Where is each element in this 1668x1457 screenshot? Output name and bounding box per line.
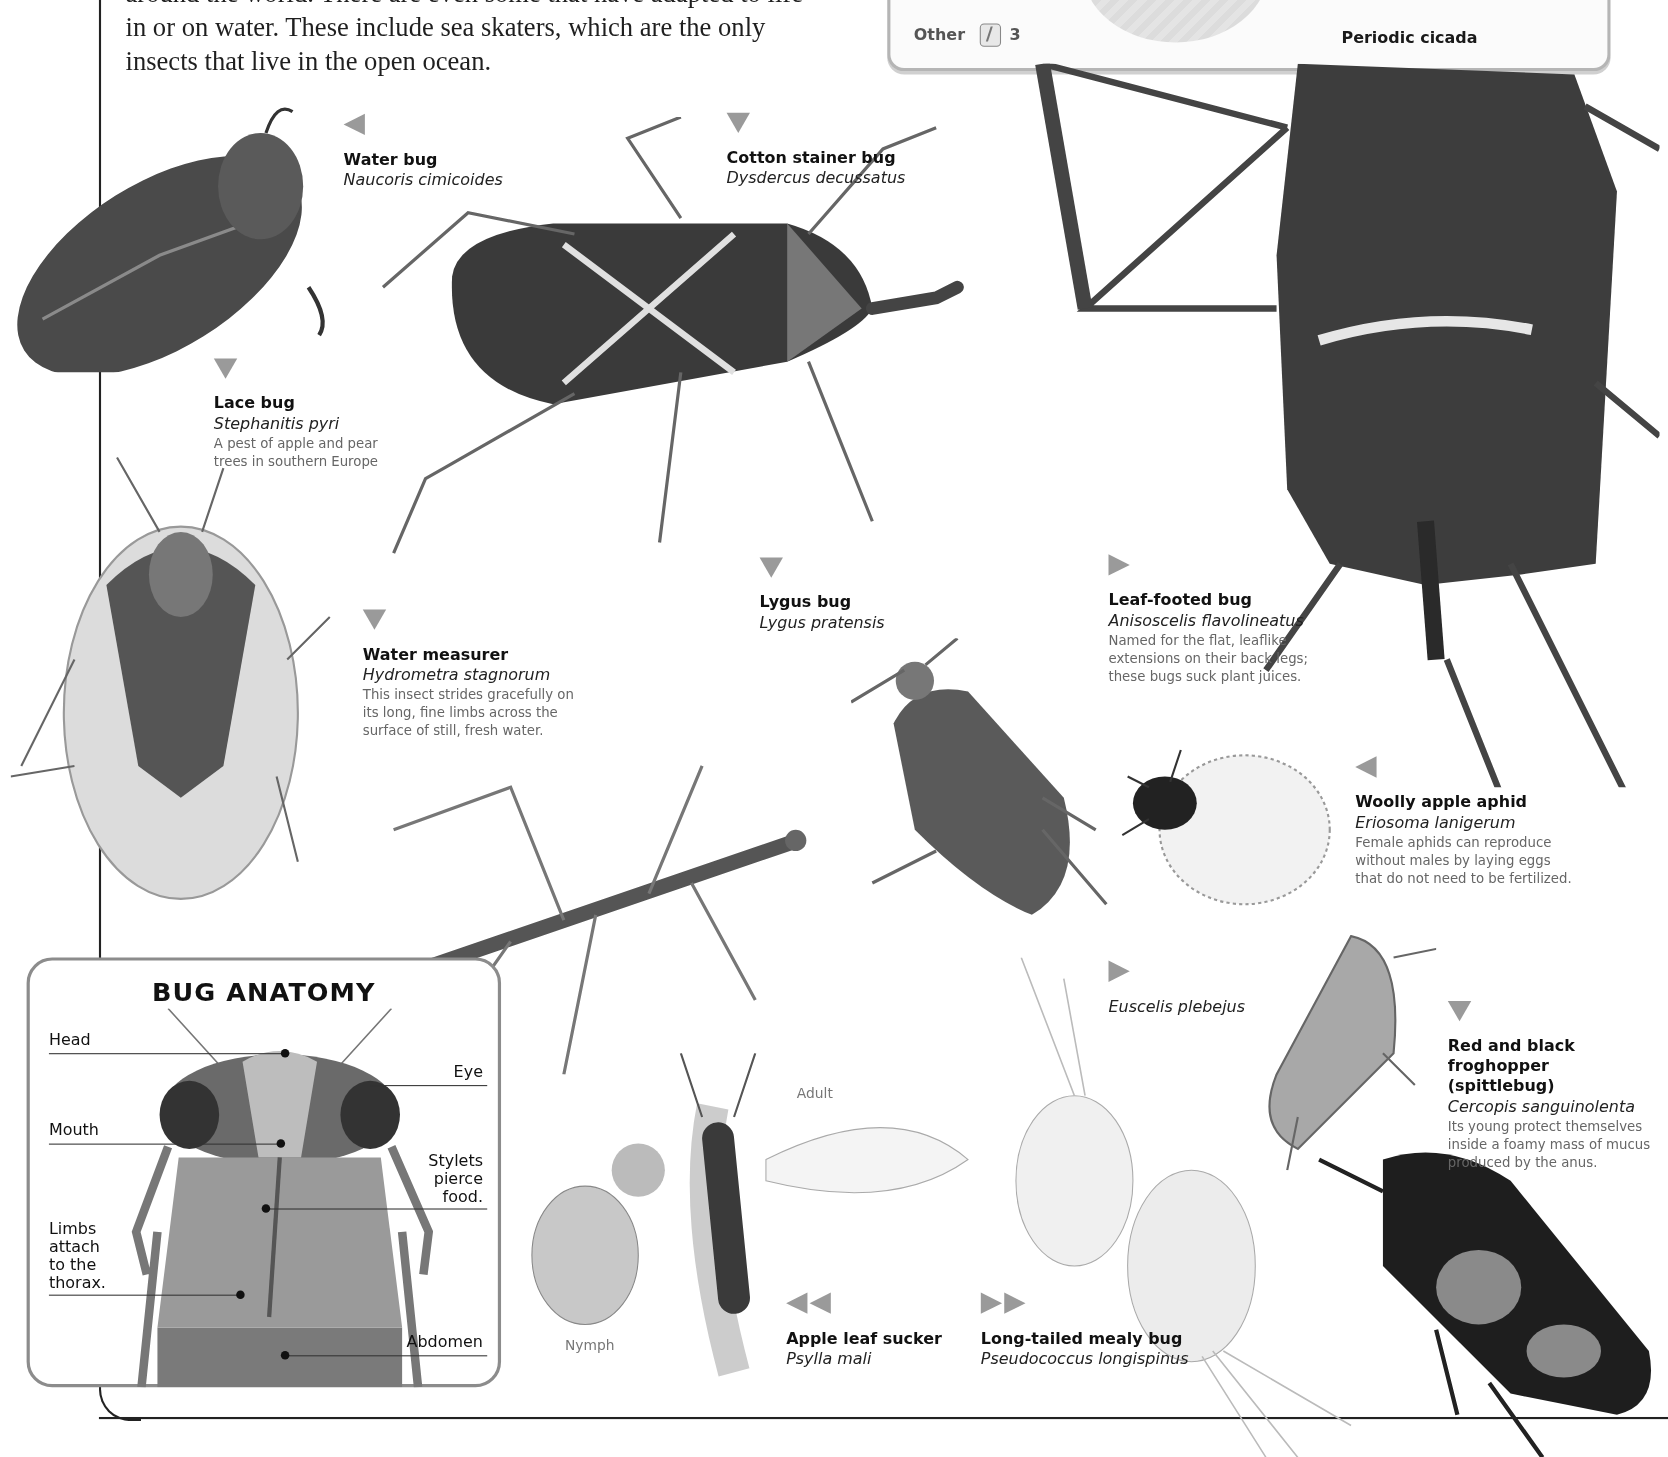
species-name: Red and black froghopper (1448, 1036, 1668, 1076)
leader-line-stylets (266, 1208, 487, 1209)
species-description: extensions on their back legs; (1108, 649, 1308, 667)
bug-anatomy-illustration (126, 1008, 435, 1387)
lace-bug-illustration (11, 447, 351, 915)
periodic-cicada-label: Periodic cicada (1341, 28, 1477, 47)
caption-froghopper: Red and black froghopper (spittlebug) Ce… (1448, 1001, 1668, 1171)
caption-cotton-stainer-bug: Cotton stainer bug Dysdercus decussatus (727, 113, 906, 189)
species-latin: Anisoscelis flavolineatus (1108, 611, 1308, 631)
species-name: Woolly apple aphid (1355, 793, 1571, 813)
caption-woolly-apple-aphid: Woolly apple aphid Eriosoma lanigerum Fe… (1355, 756, 1571, 887)
leader-dot (236, 1290, 245, 1299)
leader-dot (262, 1204, 271, 1213)
leader-line-eye (370, 1085, 487, 1086)
label-limbs: Limbs attach to the thorax. (49, 1220, 106, 1292)
label-line: food. (428, 1188, 483, 1206)
species-description: inside a foamy mass of mucus (1448, 1135, 1668, 1153)
double-pointer-left-icon (786, 1293, 942, 1314)
caption-lace-bug: Lace bug Stephanitis pyri A pest of appl… (214, 359, 378, 471)
caption-lygus-bug: Lygus bug Lygus pratensis (760, 557, 885, 633)
species-description: trees in southern Europe (214, 452, 378, 470)
species-description: its long, fine limbs across the (363, 703, 574, 721)
pointer-left-icon (1355, 756, 1376, 777)
woolly-apple-aphid-illustration (1117, 734, 1351, 925)
leader-dot (281, 1351, 290, 1360)
species-name: (spittlebug) (1448, 1077, 1668, 1097)
label-line: thorax. (49, 1274, 106, 1292)
leader-line-mouth (49, 1144, 281, 1145)
bug-anatomy-box: BUG ANATOMY Head Eye Mouth Stylets pierc… (27, 957, 501, 1387)
species-name: Long-tailed mealy bug (981, 1329, 1189, 1349)
label-line: Stylets (428, 1152, 483, 1170)
species-name: Cotton stainer bug (727, 148, 906, 168)
species-latin: Pseudococcus longispinus (981, 1349, 1189, 1369)
species-name: Water measurer (363, 645, 574, 665)
pointer-down-icon (363, 610, 386, 630)
label-abdomen: Abdomen (407, 1333, 483, 1351)
leader-dot (277, 1139, 286, 1148)
label-stylets: Stylets pierce food. (428, 1152, 483, 1206)
species-name: Lace bug (214, 394, 378, 414)
species-description: Named for the flat, leaflike (1108, 631, 1308, 649)
species-description: This insect strides gracefully on (363, 685, 574, 703)
label-line: pierce (428, 1170, 483, 1188)
intro-paragraph: around the world. There are even some th… (126, 0, 892, 79)
species-description: that do not need to be fertilized. (1355, 869, 1571, 887)
pointer-right-icon (1108, 961, 1129, 982)
pointer-left-icon (344, 114, 365, 135)
species-latin: Euscelis plebejus (1108, 997, 1245, 1017)
species-description: A pest of apple and pear (214, 434, 378, 452)
pointer-down-icon (760, 557, 783, 577)
caption-water-measurer: Water measurer Hydrometra stagnorum This… (363, 610, 574, 740)
species-description: Its young protect themselves (1448, 1117, 1668, 1135)
intro-line: in or on water. These include sea skater… (126, 11, 892, 45)
species-latin: Stephanitis pyri (214, 414, 378, 434)
species-name: Leaf-footed bug (1108, 590, 1308, 610)
pointer-down-icon (727, 113, 750, 133)
species-latin: Cercopis sanguinolenta (1448, 1097, 1668, 1117)
species-description: surface of still, fresh water. (363, 721, 574, 739)
pointer-down-icon (1448, 1001, 1471, 1021)
label-eye: Eye (454, 1063, 483, 1081)
double-pointer-right-icon (981, 1293, 1189, 1314)
anatomy-title: BUG ANATOMY (30, 978, 498, 1008)
species-description: without males by laying eggs (1355, 851, 1571, 869)
caption-euscelis: Euscelis plebejus (1108, 961, 1245, 1017)
species-latin: Psylla mali (786, 1349, 942, 1369)
label-line: Limbs (49, 1220, 106, 1238)
pointer-down-icon (214, 359, 237, 379)
leader-line-head (49, 1053, 285, 1054)
label-mouth: Mouth (49, 1121, 99, 1139)
species-description: these bugs suck plant juices. (1108, 667, 1308, 685)
long-tailed-mealy-bug-illustration (1000, 957, 1362, 1457)
other-label: Other (914, 26, 965, 45)
species-description: produced by the anus. (1448, 1153, 1668, 1171)
label-head: Head (49, 1031, 91, 1049)
species-name: Water bug (344, 150, 503, 170)
caption-long-tailed-mealy-bug: Long-tailed mealy bug Pseudococcus longi… (981, 1293, 1189, 1370)
adult-label: Adult (797, 1085, 833, 1101)
species-latin: Eriosoma lanigerum (1355, 813, 1571, 833)
label-line: attach (49, 1238, 106, 1256)
pointer-right-icon (1108, 554, 1129, 575)
cicada-disc-illustration (1082, 0, 1269, 43)
leader-line-abdomen (285, 1355, 487, 1356)
caption-apple-leaf-sucker: Apple leaf sucker Psylla mali (786, 1293, 942, 1370)
intro-line: insects that live in the open ocean. (126, 45, 892, 79)
species-description: Female aphids can reproduce (1355, 833, 1571, 851)
species-name: Lygus bug (760, 593, 885, 613)
species-name: Apple leaf sucker (786, 1329, 942, 1349)
water-bug-illustration (0, 96, 340, 373)
species-latin: Naucoris cimicoides (344, 170, 503, 190)
leader-dot (281, 1049, 290, 1058)
lygus-bug-illustration (851, 638, 1128, 957)
intro-line: around the world. There are even some th… (126, 0, 892, 11)
species-count-box: Other 3 Periodic cicada (887, 0, 1610, 71)
caption-leaf-footed-bug: Leaf-footed bug Anisoscelis flavolineatu… (1108, 554, 1308, 685)
species-latin: Hydrometra stagnorum (363, 665, 574, 685)
species-latin: Lygus pratensis (760, 613, 885, 633)
nymph-label: Nymph (565, 1337, 615, 1353)
label-line: to the (49, 1256, 106, 1274)
other-count: 3 (1010, 26, 1021, 45)
caption-water-bug: Water bug Naucoris cimicoides (344, 114, 503, 191)
